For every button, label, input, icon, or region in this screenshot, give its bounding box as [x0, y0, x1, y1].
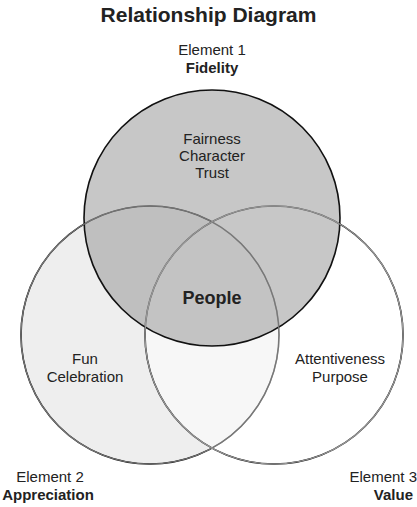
center-label: People: [112, 287, 312, 309]
element-3-label: Element 3: [327, 468, 417, 486]
element-2-item: Fun: [35, 350, 135, 368]
element-1-item: Character: [112, 147, 312, 165]
element-3-item: Purpose: [280, 368, 400, 386]
element-1-item: Trust: [112, 164, 312, 182]
element-1-label: Element 1: [112, 41, 312, 59]
element-3-name: Value: [327, 486, 413, 504]
element-1-item: Fairness: [112, 130, 312, 148]
element-3-item: Attentiveness: [280, 350, 400, 368]
element-1-name: Fidelity: [112, 59, 312, 77]
element-2-label: Element 2: [0, 468, 100, 486]
element-2-name: Appreciation: [0, 486, 96, 504]
diagram-title: Relationship Diagram: [0, 2, 417, 28]
element-2-item: Celebration: [35, 368, 135, 386]
